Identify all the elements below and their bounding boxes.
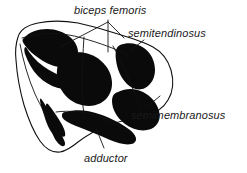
muscle-cross-section-figure: biceps femoris semitendinosus semimembra… [0,0,247,173]
label-biceps-femoris: biceps femoris [74,4,146,16]
anatomical-drawing [0,0,247,173]
muscle-mass-semitendinosus [116,43,155,89]
label-semitendinosus: semitendinosus [128,27,206,39]
leader-line-biceps-femoris-branch-right [108,22,124,38]
label-semimembranosus: semimembranosus [131,109,225,121]
muscle-mass-central [57,52,112,106]
label-adductor: adductor [84,152,128,164]
